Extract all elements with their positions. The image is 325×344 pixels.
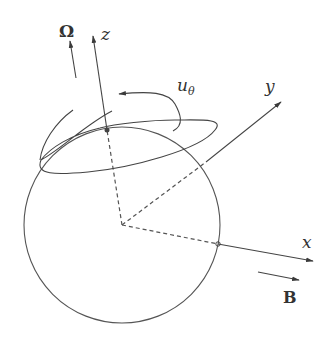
z-axis <box>93 36 107 130</box>
y-axis-label: y <box>264 76 275 96</box>
omega-arrow <box>70 41 76 78</box>
z-pole-dot <box>105 128 110 133</box>
dashed-radii <box>107 130 218 244</box>
b-field-label: B <box>283 288 297 307</box>
x-axis-label: x <box>302 232 312 252</box>
u-theta-main: u <box>177 75 188 95</box>
x-axis <box>218 244 313 261</box>
b-field-arrow <box>258 272 299 280</box>
orbit-ellipse <box>40 111 217 174</box>
u-theta-subscript: θ <box>188 85 195 98</box>
u-theta-label: uθ <box>177 75 195 98</box>
y-radius-dashed <box>122 162 206 225</box>
omega-label: Ω <box>59 21 74 41</box>
sphere-diagram: Ω z y x B uθ <box>0 0 325 344</box>
z-radius-dashed <box>107 130 122 225</box>
y-axis <box>206 102 281 162</box>
x-radius-dashed <box>122 225 218 244</box>
z-axis-label: z <box>100 24 111 44</box>
u-theta-flow-arrow <box>119 93 180 131</box>
